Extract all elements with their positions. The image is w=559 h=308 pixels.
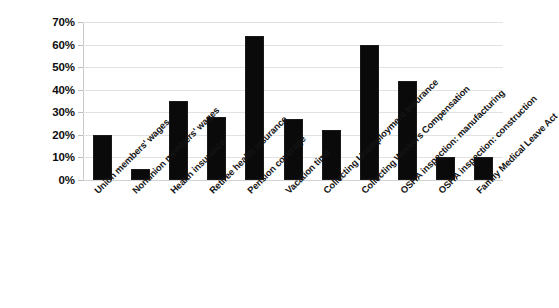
- y-axis-tick-label: 10%: [0, 152, 75, 163]
- y-axis-tick: [78, 112, 83, 113]
- y-axis-tick-label: 30%: [0, 107, 75, 118]
- y-axis-tick-label: 0%: [0, 175, 75, 186]
- y-axis-labels: 70%60%50%40%30%20%10%0%: [0, 0, 75, 308]
- y-axis-tick: [78, 67, 83, 68]
- y-axis-tick: [78, 135, 83, 136]
- y-axis-tick: [78, 180, 83, 181]
- y-axis-tick-label: 70%: [0, 17, 75, 28]
- y-axis-tick-label: 20%: [0, 129, 75, 140]
- y-axis-tick: [78, 22, 83, 23]
- y-axis-tick-label: 40%: [0, 84, 75, 95]
- y-axis-tick-label: 60%: [0, 39, 75, 50]
- y-axis-tick-label: 50%: [0, 62, 75, 73]
- y-axis-tick: [78, 45, 83, 46]
- y-axis-tick: [78, 157, 83, 158]
- y-axis-tick: [78, 90, 83, 91]
